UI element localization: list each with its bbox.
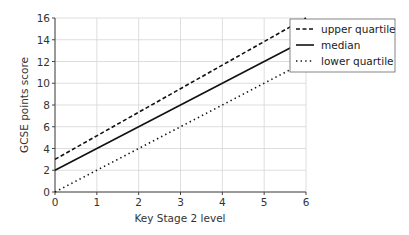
x-axis-label: Key Stage 2 level [134,212,225,224]
y-tick-label: 10 [37,77,50,89]
x-tick-label: 2 [135,196,142,208]
legend-label: upper quartile [321,23,396,35]
x-tick-label: 1 [93,196,100,208]
x-tick-label: 0 [52,196,59,208]
legend: upper quartilemedianlower quartile [290,19,396,72]
y-tick-label: 14 [37,34,51,46]
y-tick-label: 12 [37,56,50,68]
x-tick-label: 5 [261,196,268,208]
y-tick-label: 0 [43,186,50,198]
y-tick-label: 16 [37,12,51,24]
y-axis-label: GCSE points score [18,57,30,153]
x-tick-label: 6 [303,196,310,208]
legend-label: median [321,39,360,51]
y-tick-label: 2 [43,164,50,176]
x-tick-label: 3 [177,196,184,208]
line-chart: 01234560246810121416 Key Stage 2 level G… [0,0,409,235]
x-tick-label: 4 [219,196,226,208]
axes: 01234560246810121416 [37,12,310,208]
legend-label: lower quartile [321,55,394,67]
y-tick-label: 6 [43,121,50,133]
y-tick-label: 4 [43,143,50,155]
y-tick-label: 8 [43,99,50,111]
